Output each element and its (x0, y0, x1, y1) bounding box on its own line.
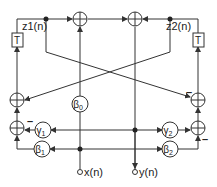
minus-sign-right-upper: – (186, 86, 192, 98)
minus-sign-gamma1: – (27, 115, 33, 127)
minus-sign-right-lower: – (202, 133, 208, 145)
output-y-label: y(n) (139, 166, 158, 178)
input-x-label: x(n) (84, 166, 103, 178)
delay-t1: T (14, 35, 20, 46)
z1-label: z1(n) (22, 20, 47, 32)
lattice-filter-diagram: z1(n) z2(n) T T β0 γ1 γ2 β1 β2 x(n) y(n)… (0, 0, 217, 187)
delay-t2: T (195, 35, 201, 46)
z2-label: z2(n) (166, 20, 191, 32)
